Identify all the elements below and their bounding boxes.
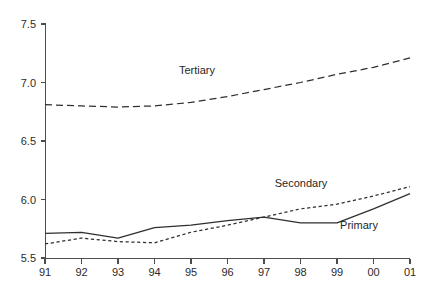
x-axis-tick-label: 96 xyxy=(221,266,233,278)
y-axis-tick-label: 5.5 xyxy=(21,252,36,264)
series-label-tertiary: Tertiary xyxy=(179,64,216,76)
x-axis-tick-label: 95 xyxy=(185,266,197,278)
y-axis-tick-label: 7.0 xyxy=(21,77,36,89)
x-axis-tick-label: 91 xyxy=(39,266,51,278)
x-axis-tick-label: 93 xyxy=(112,266,124,278)
x-axis-tick-label: 92 xyxy=(75,266,87,278)
line-chart-figure: 5.56.06.57.07.5 9192939495969798990001 T… xyxy=(0,0,431,287)
series-label-group: TertiarySecondaryPrimary xyxy=(179,64,378,231)
x-axis-tick-label: 98 xyxy=(294,266,306,278)
series-label-primary: Primary xyxy=(340,219,378,231)
x-axis-tick-label: 99 xyxy=(331,266,343,278)
x-axis-tick-label: 00 xyxy=(367,266,379,278)
x-axis: 9192939495969798990001 xyxy=(39,259,416,279)
x-axis-tick-label: 94 xyxy=(148,266,160,278)
series-label-secondary: Secondary xyxy=(275,177,328,189)
chart-plot-area: 5.56.06.57.07.5 9192939495969798990001 T… xyxy=(0,0,431,287)
series-line-tertiary xyxy=(45,58,410,107)
x-axis-tick-label: 01 xyxy=(404,266,416,278)
y-axis: 5.56.06.57.07.5 xyxy=(21,18,46,264)
x-axis-tick-label: 97 xyxy=(258,266,270,278)
y-axis-tick-label: 6.5 xyxy=(21,135,36,147)
y-axis-tick-label: 7.5 xyxy=(21,18,36,30)
y-axis-tick-label: 6.0 xyxy=(21,194,36,206)
chart-series-group xyxy=(45,58,410,244)
